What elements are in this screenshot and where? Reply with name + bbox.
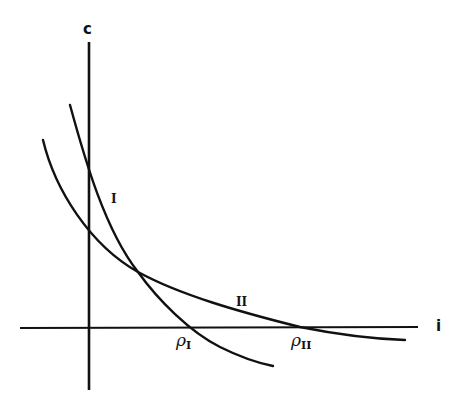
diagram-svg bbox=[0, 0, 464, 399]
y-axis-label: c bbox=[83, 22, 92, 37]
rho-I-symbol: ρ bbox=[176, 330, 186, 350]
rho-I-subscript: I bbox=[186, 339, 191, 352]
rho-II-subscript: II bbox=[301, 339, 311, 352]
curve-I-label: I bbox=[111, 193, 117, 205]
curve-II bbox=[43, 140, 405, 340]
rho-I-label: ρI bbox=[176, 332, 191, 351]
rho-II-label: ρII bbox=[291, 332, 311, 351]
curve-II-label: II bbox=[236, 296, 247, 308]
rho-II-symbol: ρ bbox=[291, 330, 301, 350]
diagram-canvas: c i I II ρI ρII bbox=[0, 0, 464, 399]
x-axis bbox=[20, 327, 418, 328]
x-axis-label: i bbox=[436, 319, 441, 334]
